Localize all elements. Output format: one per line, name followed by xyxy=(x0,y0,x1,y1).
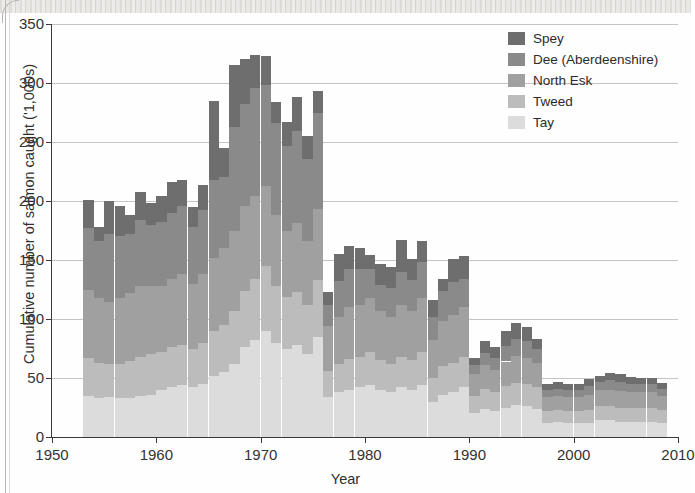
bar-1967 xyxy=(229,65,239,437)
bar-segment-north-esk xyxy=(250,196,260,279)
bar-1978 xyxy=(344,246,354,437)
bar-segment-north-esk xyxy=(605,390,615,407)
bar-segment-tweed xyxy=(396,357,406,388)
gridline xyxy=(52,201,678,202)
bar-segment-north-esk xyxy=(104,302,114,363)
x-tick-label: 2010 xyxy=(661,446,694,463)
bar-segment-spey xyxy=(167,182,177,213)
bar-segment-tay xyxy=(490,411,500,437)
bar-segment-north-esk xyxy=(480,365,490,389)
x-tick-mark xyxy=(678,437,679,443)
scan-artifact-strip xyxy=(0,0,691,13)
bar-segment-spey xyxy=(647,378,657,384)
bar-segment-dee-aberdeenshire xyxy=(240,104,250,205)
bar-segment-spey xyxy=(584,379,594,386)
bar-segment-dee-aberdeenshire xyxy=(428,317,438,341)
bar-segment-north-esk xyxy=(355,305,365,357)
bar-segment-dee-aberdeenshire xyxy=(490,358,500,370)
bar-segment-north-esk xyxy=(522,358,532,384)
legend-swatch-icon xyxy=(508,53,525,66)
bar-segment-tweed xyxy=(125,361,135,398)
bar-segment-tay xyxy=(156,390,166,437)
bar-segment-spey xyxy=(532,339,542,348)
x-tick-mark xyxy=(574,437,575,443)
bar-segment-tweed xyxy=(448,363,458,393)
bar-segment-north-esk xyxy=(302,241,312,305)
bar-segment-north-esk xyxy=(365,298,375,352)
bar-2003 xyxy=(605,373,615,437)
bar-segment-tweed xyxy=(282,297,292,349)
bar-segment-north-esk xyxy=(177,274,187,345)
bar-1958 xyxy=(135,192,145,437)
x-tick-label: 1970 xyxy=(244,446,277,463)
bar-segment-tweed xyxy=(428,378,438,402)
bar-segment-dee-aberdeenshire xyxy=(647,384,657,392)
bar-segment-spey xyxy=(125,215,135,234)
bar-segment-tweed xyxy=(313,280,323,337)
bar-segment-tay xyxy=(396,387,406,437)
bar-1959 xyxy=(146,203,156,437)
bar-segment-tay xyxy=(584,423,594,437)
bar-segment-spey xyxy=(135,192,145,220)
bar-segment-tweed xyxy=(302,305,312,355)
bar-segment-dee-aberdeenshire xyxy=(167,213,177,279)
bar-segment-dee-aberdeenshire xyxy=(125,234,135,293)
bar-segment-tay xyxy=(522,406,532,437)
bar-segment-tweed xyxy=(156,352,166,390)
legend-item-north-esk: North Esk xyxy=(508,70,658,91)
bar-segment-tweed xyxy=(375,360,385,390)
bar-segment-north-esk xyxy=(229,231,239,311)
bar-1984 xyxy=(407,259,417,437)
bar-1982 xyxy=(386,267,396,437)
bar-segment-tweed xyxy=(522,384,532,406)
bar-1968 xyxy=(240,59,250,437)
bar-segment-tay xyxy=(501,408,511,438)
bar-segment-spey xyxy=(511,323,521,340)
bar-segment-spey xyxy=(146,203,156,224)
x-tick-mark xyxy=(52,437,53,443)
bar-segment-spey xyxy=(261,56,271,86)
bar-segment-spey xyxy=(595,376,605,382)
bar-segment-spey xyxy=(459,256,469,278)
bar-segment-tweed xyxy=(501,386,511,407)
bar-segment-north-esk xyxy=(636,392,646,407)
bar-segment-tay xyxy=(595,420,605,437)
bar-segment-tay xyxy=(229,364,239,437)
bar-1983 xyxy=(396,240,406,437)
bar-segment-north-esk xyxy=(595,390,605,407)
bar-segment-tweed xyxy=(198,343,208,384)
bar-segment-dee-aberdeenshire xyxy=(636,384,646,392)
bar-segment-north-esk xyxy=(469,374,479,395)
bar-segment-spey xyxy=(469,358,479,365)
bar-segment-dee-aberdeenshire xyxy=(532,349,542,363)
bar-segment-tay xyxy=(146,395,156,437)
bar-segment-tweed xyxy=(584,410,594,423)
bar-segment-spey xyxy=(188,207,198,227)
gridline xyxy=(52,24,678,25)
bar-segment-tweed xyxy=(386,364,396,392)
bar-segment-tay xyxy=(104,397,114,437)
bar-segment-spey xyxy=(250,55,260,88)
bar-segment-tweed xyxy=(365,352,375,385)
bar-segment-tweed xyxy=(407,360,417,390)
bar-1981 xyxy=(375,264,385,437)
legend-swatch-icon xyxy=(508,95,525,108)
bar-segment-spey xyxy=(636,378,646,384)
bar-segment-north-esk xyxy=(292,223,302,291)
bar-segment-tay xyxy=(302,354,312,437)
bar-1989 xyxy=(459,256,469,437)
bar-segment-dee-aberdeenshire xyxy=(615,382,625,391)
bar-segment-spey xyxy=(615,374,625,381)
bar-segment-tay xyxy=(94,398,104,437)
bar-segment-tweed xyxy=(647,408,657,422)
bar-2005 xyxy=(626,377,636,437)
bar-segment-tay xyxy=(386,392,396,437)
bar-1961 xyxy=(167,182,177,437)
bar-segment-tay xyxy=(428,402,438,437)
bar-segment-spey xyxy=(563,384,573,390)
bar-segment-dee-aberdeenshire xyxy=(469,365,479,374)
bar-segment-north-esk xyxy=(396,305,406,357)
bar-segment-dee-aberdeenshire xyxy=(355,269,365,304)
bar-segment-spey xyxy=(417,241,427,262)
bar-1957 xyxy=(125,215,135,437)
